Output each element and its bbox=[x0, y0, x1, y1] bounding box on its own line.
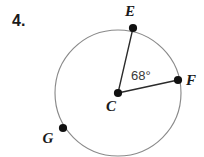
point-dot-e bbox=[129, 24, 137, 32]
point-label-g: G bbox=[43, 130, 54, 146]
radius-line-ce bbox=[118, 28, 133, 93]
point-label-f: F bbox=[185, 72, 196, 88]
circle-diagram-svg: 4. E F C G 68° bbox=[0, 0, 204, 157]
point-dot-c bbox=[114, 89, 122, 97]
angle-measure-label: 68° bbox=[131, 68, 151, 83]
point-dot-f bbox=[174, 76, 182, 84]
point-label-e: E bbox=[124, 3, 135, 19]
geometry-figure-container: 4. E F C G 68° bbox=[0, 0, 204, 157]
problem-number: 4. bbox=[12, 12, 25, 29]
point-label-c: C bbox=[106, 98, 117, 114]
point-dot-g bbox=[59, 124, 67, 132]
